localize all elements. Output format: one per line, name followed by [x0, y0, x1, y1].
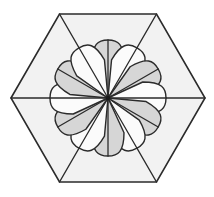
- center-point-dot: [106, 96, 110, 100]
- geometric-figure-svg: [0, 0, 214, 197]
- figure-canvas: [0, 0, 214, 197]
